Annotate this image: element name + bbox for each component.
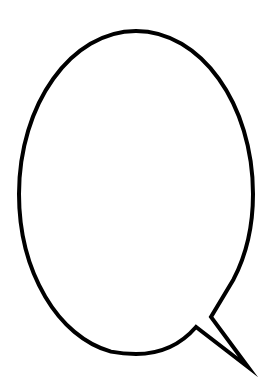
speech-bubble-illustration — [0, 0, 275, 390]
artwork-canvas — [0, 0, 275, 390]
